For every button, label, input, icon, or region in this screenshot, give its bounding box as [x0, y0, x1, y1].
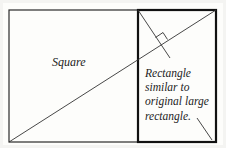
- rectangle-label: Rectangle similar to original large rect…: [145, 66, 209, 123]
- rectangle-label-line-2: similar to: [145, 80, 209, 94]
- rectangle-label-line-4: rectangle.: [145, 109, 209, 123]
- rectangle-label-line-3: original large: [145, 94, 209, 108]
- rectangle-label-line-1: Rectangle: [145, 66, 209, 80]
- perpendicular-line: [138, 10, 170, 58]
- square-label: Square: [52, 55, 86, 70]
